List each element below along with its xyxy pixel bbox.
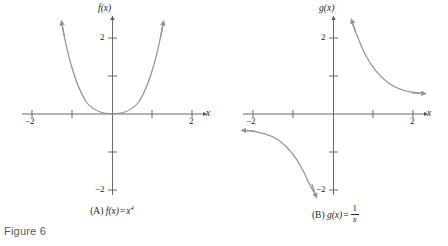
x-tick-label-a-pos2: 2 bbox=[189, 117, 194, 126]
caption-b-equals: = bbox=[342, 210, 349, 220]
x-tick-label-a-neg2: −2 bbox=[25, 117, 35, 126]
panel-b-graph: g(x) x −2 2 2 −2 (B) g(x)=1x bbox=[224, 0, 448, 215]
curve-g-negative-branch bbox=[245, 131, 315, 195]
caption-a: (A) f(x)=x4 bbox=[0, 204, 224, 217]
x-axis-label-b: x bbox=[427, 109, 431, 119]
caption-b-fraction: 1x bbox=[351, 204, 360, 224]
y-tick-label-b-pos2: 2 bbox=[321, 33, 326, 42]
caption-a-expr-exponent: 4 bbox=[131, 204, 134, 211]
figure-label: Figure 6 bbox=[4, 226, 46, 237]
figure-container: f(x) x −2 2 2 −2 (A) f(x)=x4 bbox=[0, 0, 448, 246]
caption-a-index: (A) bbox=[90, 206, 103, 216]
x-axis-label-a: x bbox=[206, 109, 210, 119]
caption-b-fraction-denominator: x bbox=[351, 215, 360, 224]
caption-a-function: f(x) bbox=[106, 206, 119, 216]
curve-g-positive-branch bbox=[352, 22, 422, 93]
y-axis-label-a: f(x) bbox=[98, 4, 111, 14]
caption-b-fraction-numerator: 1 bbox=[351, 204, 360, 213]
y-axis-a bbox=[108, 20, 117, 195]
y-tick-label-a-neg2: −2 bbox=[95, 185, 105, 194]
panel-a-graph: f(x) x −2 2 2 −2 (A) f(x)=x4 bbox=[0, 0, 224, 215]
plot-a-svg bbox=[0, 0, 224, 215]
y-tick-label-a-pos2: 2 bbox=[100, 33, 105, 42]
caption-b-function: g(x) bbox=[327, 210, 342, 220]
y-axis-label-b: g(x) bbox=[319, 4, 334, 14]
y-axis-b bbox=[329, 20, 338, 195]
plot-b-svg bbox=[224, 0, 448, 215]
x-tick-label-b-pos2: 2 bbox=[410, 117, 415, 126]
caption-b: (B) g(x)=1x bbox=[224, 204, 448, 224]
y-tick-label-b-neg2: −2 bbox=[316, 185, 326, 194]
caption-b-index: (B) bbox=[312, 210, 325, 220]
x-tick-label-b-neg2: −2 bbox=[246, 117, 256, 126]
